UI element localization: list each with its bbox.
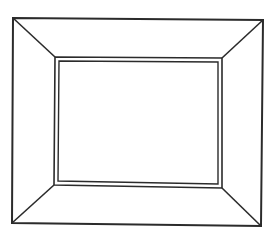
background: [0, 0, 278, 246]
picture-frame-diagram: [0, 0, 278, 246]
